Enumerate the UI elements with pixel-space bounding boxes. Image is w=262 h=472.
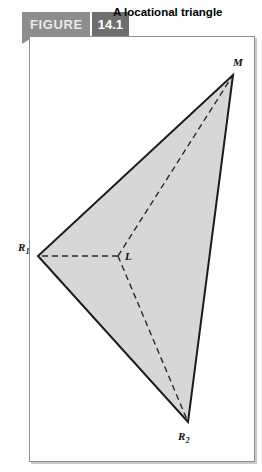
vertex-label-r1-sub: 1 [26,247,30,256]
vertex-label-r2-sub: 2 [186,436,190,445]
vertex-label-m-text: M [233,56,243,68]
figure-page: FIGURE 14.1 A locational triangle M R1 R… [0,0,262,472]
vertex-label-r1-text: R [18,241,25,253]
figure-title: A locational triangle [113,6,258,20]
figure-tab-label: FIGURE [22,12,90,37]
interior-point-label-l-text: L [125,250,132,262]
vertex-label-r2-text: R [178,430,185,442]
figure-frame-inner [30,37,254,461]
figure-frame [29,36,255,462]
figure-header: FIGURE 14.1 A locational triangle [0,0,262,40]
vertex-label-m: M [233,57,243,68]
vertex-label-r1: R1 [18,242,29,253]
interior-point-label-l: L [125,251,132,262]
vertex-label-r2: R2 [178,431,189,442]
